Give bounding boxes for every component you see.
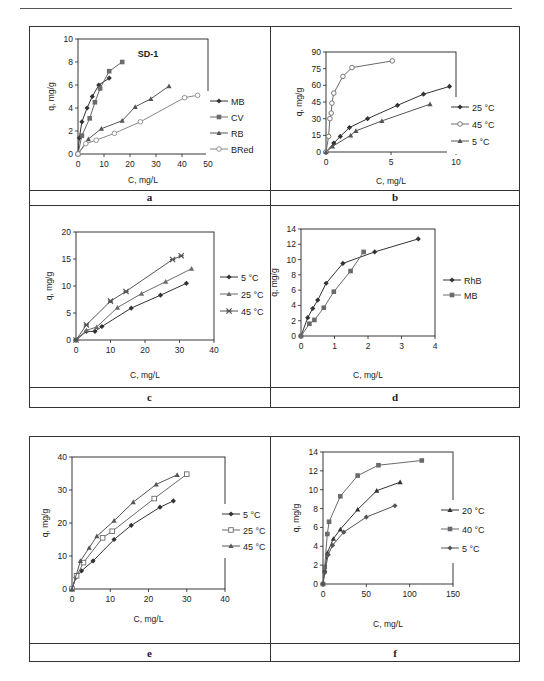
- series-5-c: [323, 102, 432, 154]
- svg-text:25 °C: 25 °C: [241, 290, 264, 300]
- svg-text:60: 60: [312, 80, 322, 90]
- svg-text:2: 2: [68, 126, 73, 136]
- svg-text:4: 4: [313, 541, 318, 551]
- svg-text:5 °C: 5 °C: [241, 273, 259, 283]
- svg-text:0: 0: [313, 579, 318, 589]
- svg-text:0: 0: [316, 147, 321, 157]
- svg-text:10: 10: [451, 157, 461, 167]
- chart-panel-f: 02468101214050100150C, mg/Lq, mg/g20 °C4…: [271, 437, 519, 642]
- svg-text:RB: RB: [231, 129, 244, 139]
- svg-text:15: 15: [62, 254, 72, 264]
- series-mb: [75, 76, 111, 157]
- svg-text:10: 10: [287, 255, 297, 265]
- svg-text:50: 50: [362, 589, 372, 599]
- svg-text:0: 0: [62, 584, 67, 594]
- svg-text:30: 30: [312, 114, 322, 124]
- svg-text:CV: CV: [231, 113, 244, 123]
- svg-text:20: 20: [58, 518, 68, 528]
- svg-text:20: 20: [125, 159, 135, 169]
- svg-text:5 °C: 5 °C: [243, 510, 261, 520]
- svg-text:40: 40: [209, 345, 219, 355]
- svg-text:12: 12: [287, 239, 297, 249]
- svg-text:100: 100: [403, 589, 417, 599]
- panel-label-c: c: [29, 391, 270, 403]
- svg-text:0: 0: [324, 157, 329, 167]
- svg-text:q, mg/g: q, mg/g: [294, 88, 304, 117]
- chart-panel-c: 05101520010203040C, mg/Lq, mg/g5 °C25 °C…: [30, 206, 270, 386]
- svg-text:25 °C: 25 °C: [472, 103, 495, 113]
- row-divider: [29, 643, 520, 644]
- panel-label-f: f: [270, 647, 520, 659]
- svg-text:5: 5: [389, 157, 394, 167]
- svg-text:10: 10: [99, 159, 109, 169]
- svg-text:2: 2: [366, 341, 371, 351]
- svg-text:8: 8: [68, 57, 73, 67]
- svg-text:40: 40: [58, 452, 68, 462]
- svg-text:15: 15: [312, 130, 322, 140]
- row-divider: [29, 387, 520, 388]
- svg-text:10: 10: [58, 551, 68, 561]
- series-5-c: [73, 281, 189, 343]
- svg-text:q, mg/g: q, mg/g: [40, 509, 50, 538]
- svg-text:SD-1: SD-1: [138, 49, 159, 59]
- svg-text:3: 3: [399, 341, 404, 351]
- chart-panel-a: 024681001020304050C, mg/Lq, mg/gSD-1MBCV…: [30, 27, 270, 189]
- svg-text:10: 10: [64, 34, 74, 44]
- svg-text:10: 10: [62, 281, 72, 291]
- svg-text:0: 0: [66, 335, 71, 345]
- svg-text:20: 20: [140, 345, 150, 355]
- svg-text:45 °C: 45 °C: [472, 120, 495, 130]
- svg-text:C, mg/L: C, mg/L: [353, 370, 383, 380]
- svg-text:20: 20: [144, 594, 154, 604]
- series-45-c: [69, 472, 179, 591]
- chart-panel-e: 010203040010203040C, mg/Lq, mg/g5 °C25 °…: [30, 437, 270, 642]
- svg-text:10: 10: [309, 485, 319, 495]
- svg-text:4: 4: [291, 300, 296, 310]
- svg-text:25 °C: 25 °C: [243, 526, 266, 536]
- svg-text:30: 30: [58, 485, 68, 495]
- svg-text:q, mg/g: q, mg/g: [271, 268, 279, 297]
- svg-text:12: 12: [309, 466, 319, 476]
- svg-text:8: 8: [313, 504, 318, 514]
- chart-panel-d: 0246810121401234C, mg/Lq, mg/gRhBMB: [271, 206, 519, 386]
- svg-text:14: 14: [287, 224, 297, 234]
- svg-text:10: 10: [106, 345, 116, 355]
- svg-text:0: 0: [76, 159, 81, 169]
- svg-text:5: 5: [66, 308, 71, 318]
- svg-text:C, mg/L: C, mg/L: [134, 614, 164, 624]
- chart-panel-b: 01530456075900510C, mg/Lq, mg/g25 °C45 °…: [271, 27, 519, 189]
- svg-text:q, mg/g: q, mg/g: [291, 504, 301, 533]
- svg-text:0: 0: [321, 589, 326, 599]
- svg-text:40 °C: 40 °C: [462, 525, 485, 535]
- svg-text:30: 30: [151, 159, 161, 169]
- svg-text:150: 150: [446, 589, 460, 599]
- svg-text:90: 90: [312, 47, 322, 57]
- svg-text:0: 0: [70, 594, 75, 604]
- series-25-c: [70, 472, 189, 591]
- svg-text:2: 2: [291, 316, 296, 326]
- svg-text:6: 6: [291, 285, 296, 295]
- svg-text:q, mg/g: q, mg/g: [44, 272, 54, 301]
- svg-text:4: 4: [433, 341, 438, 351]
- svg-text:4: 4: [68, 103, 73, 113]
- svg-text:5 °C: 5 °C: [462, 544, 480, 554]
- series-45-c: [324, 59, 395, 155]
- svg-text:q, mg/g: q, mg/g: [46, 82, 56, 111]
- series-cv: [76, 60, 125, 157]
- panel-label-b: b: [270, 191, 520, 203]
- svg-text:0: 0: [291, 331, 296, 341]
- svg-text:30: 30: [182, 594, 192, 604]
- series-20-c: [320, 480, 402, 587]
- svg-text:40: 40: [177, 159, 187, 169]
- page-header-rule: [20, 8, 512, 9]
- svg-text:10: 10: [106, 594, 116, 604]
- series-rhb: [298, 236, 420, 338]
- svg-text:30: 30: [175, 345, 185, 355]
- svg-text:MB: MB: [464, 291, 478, 301]
- series-25-c: [73, 266, 194, 342]
- panel-label-d: d: [270, 391, 520, 403]
- svg-text:45 °C: 45 °C: [241, 307, 264, 317]
- svg-text:MB: MB: [231, 97, 245, 107]
- svg-text:8: 8: [291, 270, 296, 280]
- svg-text:0: 0: [299, 341, 304, 351]
